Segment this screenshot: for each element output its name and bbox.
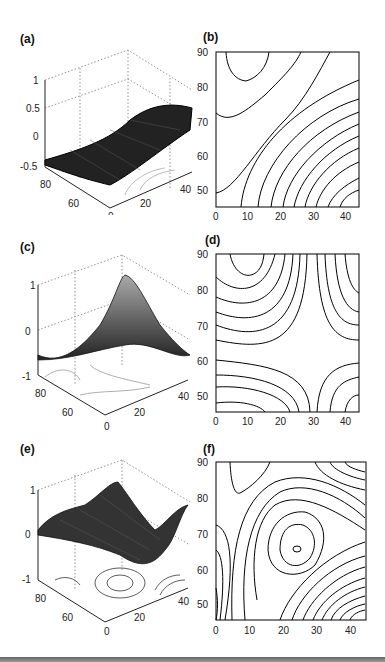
svg-text:0: 0	[25, 326, 31, 337]
svg-text:60: 60	[62, 612, 74, 623]
svg-text:0: 0	[213, 625, 219, 636]
svg-text:0: 0	[213, 416, 219, 427]
svg-text:30: 30	[308, 211, 320, 222]
svg-text:0: 0	[33, 131, 39, 142]
svg-text:20: 20	[275, 416, 287, 427]
svg-text:60: 60	[197, 356, 209, 367]
svg-text:80: 80	[197, 82, 209, 93]
svg-text:-0.5: -0.5	[20, 161, 38, 172]
svg-text:0: 0	[213, 211, 219, 222]
svg-text:0: 0	[104, 421, 110, 430]
svg-text:0: 0	[25, 529, 31, 540]
svg-text:0.5: 0.5	[26, 103, 40, 114]
svg-text:80: 80	[40, 179, 52, 190]
svg-text:70: 70	[197, 321, 209, 332]
svg-text:80: 80	[35, 593, 47, 604]
contour-plot-b: 90 80 70 60 50 0 10 20 30 40	[195, 0, 385, 225]
svg-text:0: 0	[104, 626, 110, 637]
svg-text:90: 90	[197, 249, 209, 260]
svg-text:60: 60	[197, 565, 209, 576]
svg-text:20: 20	[134, 612, 146, 623]
bottom-border	[0, 657, 385, 662]
surface-plot-c: 1 0 -1 80 60 0 20 40	[0, 215, 195, 430]
svg-text:-1: -1	[22, 371, 31, 382]
svg-text:70: 70	[197, 117, 209, 128]
svg-text:60: 60	[197, 151, 209, 162]
svg-text:80: 80	[197, 493, 209, 504]
svg-text:80: 80	[197, 285, 209, 296]
svg-text:70: 70	[197, 529, 209, 540]
svg-text:20: 20	[140, 198, 152, 209]
svg-text:60: 60	[68, 198, 80, 209]
svg-text:50: 50	[197, 185, 209, 196]
panel-c: (c) 1 0 -1 80 60 0 20 40	[0, 215, 195, 430]
panel-f: (f) 90 80 70 60	[195, 430, 385, 657]
svg-text:50: 50	[197, 599, 209, 610]
svg-text:40: 40	[180, 184, 192, 195]
svg-text:1: 1	[33, 75, 39, 86]
svg-text:20: 20	[134, 407, 146, 418]
svg-text:20: 20	[278, 625, 290, 636]
contour-plot-f: 90 80 70 60 50 0 10 20 30 40	[195, 430, 385, 657]
svg-text:1: 1	[30, 280, 36, 291]
surface-plot-a: 1 0.5 0 -0.5 80 60 0 20 40	[0, 0, 195, 215]
svg-text:50: 50	[197, 391, 209, 402]
panel-d: (d) 90 80 70 60 50 0 10	[195, 225, 385, 430]
svg-text:60: 60	[62, 407, 74, 418]
svg-text:30: 30	[311, 625, 323, 636]
svg-text:30: 30	[308, 416, 320, 427]
svg-text:90: 90	[197, 47, 209, 58]
svg-text:-1: -1	[22, 574, 31, 585]
panel-e: (e) 1 0 -1 80 60 0 20	[0, 430, 195, 657]
svg-text:10: 10	[242, 211, 254, 222]
svg-text:40: 40	[340, 416, 352, 427]
svg-text:20: 20	[275, 211, 287, 222]
svg-text:40: 40	[345, 625, 357, 636]
svg-text:40: 40	[340, 211, 352, 222]
contour-plot-d: 90 80 70 60 50 0 10 20 30 40	[195, 225, 385, 430]
panel-b: (b) 90 80 70 60 50 0 10 20 30 40	[195, 0, 385, 225]
svg-text:40: 40	[178, 391, 190, 402]
surface-plot-e: 1 0 -1 80 60 0 20 40	[0, 430, 195, 657]
svg-text:90: 90	[197, 457, 209, 468]
svg-text:10: 10	[242, 416, 254, 427]
panel-a: (a) 1 0.5 0 -0.5 80 60 0 20 40	[0, 0, 195, 215]
svg-text:10: 10	[244, 625, 256, 636]
svg-text:80: 80	[35, 388, 47, 399]
svg-text:40: 40	[178, 596, 190, 607]
svg-text:1: 1	[30, 485, 36, 496]
